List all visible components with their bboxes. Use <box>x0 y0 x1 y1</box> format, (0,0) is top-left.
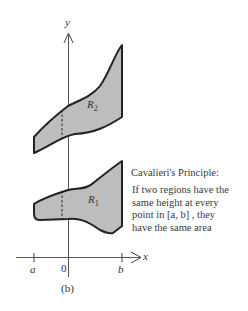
cavalieri-figure: y x a 0 b R2 R1 (b) Cavalieri's Principl… <box>0 0 248 311</box>
region-r2 <box>34 45 122 153</box>
region-r2-label: R2 <box>87 99 98 113</box>
figure-canvas <box>0 0 248 311</box>
y-axis-label: y <box>65 17 70 28</box>
tick-label-b: b <box>118 264 124 275</box>
x-axis-label: x <box>143 251 148 262</box>
caption-line: have the same area <box>132 222 248 235</box>
caption-title: Cavalieri's Principle: <box>131 167 219 178</box>
region-r1-label: R1 <box>88 194 99 208</box>
tick-label-zero: 0 <box>61 263 67 274</box>
caption-line: point in [a, b] , they <box>132 209 248 222</box>
region-r1 <box>34 161 122 233</box>
tick-label-a: a <box>30 264 36 275</box>
figure-label: (b) <box>61 283 74 294</box>
caption-line: If two regions have the <box>132 184 248 197</box>
caption-body: If two regions have the same height at e… <box>132 184 248 234</box>
caption-line: same height at every <box>132 197 248 210</box>
